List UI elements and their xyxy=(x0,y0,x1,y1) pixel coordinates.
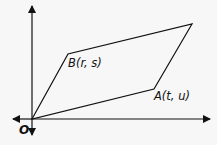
diagram: O B(r, s) A(t, u) xyxy=(0,0,217,145)
parallelogram xyxy=(32,24,192,119)
origin-label: O xyxy=(19,123,29,137)
point-a-label: A(t, u) xyxy=(153,89,190,103)
point-b-label: B(r, s) xyxy=(68,56,102,70)
